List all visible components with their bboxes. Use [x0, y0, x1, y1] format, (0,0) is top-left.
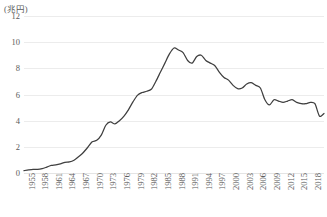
x-tick-label-1979: 1979 [137, 173, 146, 190]
x-tick-label-1997: 1997 [218, 173, 227, 190]
y-axis: 024681012 [0, 0, 24, 217]
y-tick-label-6: 6 [16, 91, 20, 100]
series-path-corporate-tax [24, 48, 324, 171]
y-tick-label-10: 10 [12, 38, 21, 47]
chart-container: (兆円) 024681012 1955195819611964196719701… [0, 0, 327, 217]
y-tick-label-12: 12 [12, 12, 21, 21]
x-tick-label-1991: 1991 [191, 173, 200, 190]
x-tick-label-1961: 1961 [55, 173, 64, 190]
x-tick-label-1988: 1988 [178, 173, 187, 190]
x-tick-label-2000: 2000 [232, 173, 241, 190]
x-tick-label-1955: 1955 [28, 173, 37, 190]
x-tick-label-1982: 1982 [150, 173, 159, 190]
x-tick-label-2006: 2006 [259, 173, 268, 190]
y-tick-label-2: 2 [16, 143, 20, 152]
x-tick-label-2018: 2018 [314, 173, 323, 190]
x-tick-label-2003: 2003 [246, 173, 255, 190]
x-tick-label-2015: 2015 [300, 173, 309, 190]
series-line-chart [24, 16, 324, 173]
x-tick-label-1964: 1964 [68, 173, 77, 190]
y-tick-label-4: 4 [16, 117, 20, 126]
y-tick-label-8: 8 [16, 64, 20, 73]
x-axis: 1955195819611964196719701973197619791982… [24, 173, 324, 217]
y-tick-label-0: 0 [16, 169, 20, 178]
x-tick-label-2012: 2012 [287, 173, 296, 190]
x-tick-label-1976: 1976 [123, 173, 132, 190]
x-tick-label-1985: 1985 [164, 173, 173, 190]
x-tick-label-1973: 1973 [109, 173, 118, 190]
x-tick-label-2009: 2009 [273, 173, 282, 190]
x-tick-label-1970: 1970 [96, 173, 105, 190]
x-tick-label-1967: 1967 [82, 173, 91, 190]
x-tick-label-1994: 1994 [205, 173, 214, 190]
x-tick-label-1958: 1958 [41, 173, 50, 190]
